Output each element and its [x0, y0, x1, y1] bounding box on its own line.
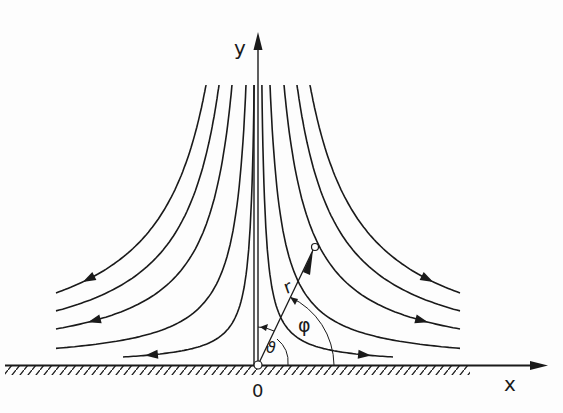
flow-arrow-icon [145, 350, 159, 360]
y-axis-arrowhead-icon [254, 32, 263, 50]
streamline [56, 85, 232, 329]
streamline [284, 85, 460, 329]
streamline [56, 85, 206, 293]
streamline [310, 85, 460, 293]
x-axis-arrowhead-icon [530, 361, 548, 370]
x-axis-label: x [504, 374, 516, 394]
flow-arrow-icon [358, 350, 372, 360]
radius-arrowhead-icon [303, 250, 313, 275]
phi-arc [290, 297, 334, 365]
streamline [270, 85, 460, 348]
wall-hatching [5, 366, 470, 375]
theta-label: ϑ [266, 340, 276, 356]
phi-label: φ [298, 316, 311, 335]
point-marker [312, 244, 319, 251]
theta-arc-arrow-icon [260, 324, 268, 331]
flow-arrow-icon [87, 314, 102, 326]
phi-arc-arrow-icon [290, 297, 298, 305]
flow-arrow-icon [414, 314, 429, 326]
origin-marker [254, 361, 262, 369]
y-axis-label: y [234, 38, 246, 58]
streamline [56, 85, 219, 311]
stagnation-flow-diagram: y x 0 r φ ϑ [0, 0, 563, 413]
streamline [297, 85, 460, 311]
flow-arrow-icon [81, 272, 97, 286]
origin-label: 0 [252, 382, 263, 400]
streamline [56, 85, 246, 348]
flow-arrow-icon [420, 272, 436, 286]
streamline-plot [0, 0, 563, 413]
theta-base-arc [277, 339, 288, 365]
